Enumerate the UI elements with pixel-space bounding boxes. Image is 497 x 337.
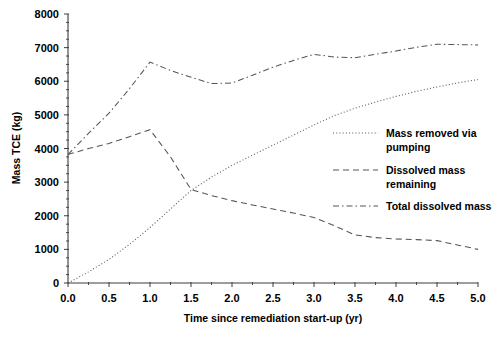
y-tick-label: 5000 (35, 109, 59, 121)
x-tick-label: 0.5 (101, 292, 116, 304)
x-tick-label: 1.0 (142, 292, 157, 304)
x-tick-label: 1.5 (183, 292, 198, 304)
y-axis-tick-labels: 010002000300040005000600070008000 (35, 8, 59, 289)
y-tick-label: 3000 (35, 176, 59, 188)
legend-label-mass-removed-via-pumping-line2: pumping (386, 141, 430, 153)
y-axis-title: Mass TCE (kg) (10, 112, 22, 184)
y-tick-label: 0 (53, 277, 59, 289)
x-axis-ticks (68, 282, 478, 287)
y-tick-label: 8000 (35, 8, 59, 20)
chart-legend: Mass removed via pumping Dissolved mass … (333, 127, 492, 212)
y-tick-label: 4000 (35, 143, 59, 155)
x-tick-label: 4.0 (388, 292, 403, 304)
x-axis-tick-labels: 0.00.51.01.52.02.53.03.54.04.55.0 (60, 292, 485, 304)
x-axis-title: Time since remediation start-up (yr) (184, 312, 362, 324)
x-axis-group: 0.00.51.01.52.02.53.03.54.04.55.0 Time s… (60, 282, 485, 324)
x-tick-label: 3.0 (306, 292, 321, 304)
y-tick-label: 1000 (35, 243, 59, 255)
legend-label-total-dissolved-mass-line1: Total dissolved mass (386, 200, 492, 212)
x-tick-label: 4.5 (429, 292, 444, 304)
x-tick-label: 2.0 (224, 292, 239, 304)
x-tick-label: 0.0 (60, 292, 75, 304)
x-tick-label: 5.0 (470, 292, 485, 304)
legend-label-dissolved-mass-remaining-line1: Dissolved mass (386, 164, 466, 176)
x-tick-label: 3.5 (347, 292, 362, 304)
chart-container: 010002000300040005000600070008000 Mass T… (0, 0, 497, 337)
y-tick-label: 6000 (35, 75, 59, 87)
y-tick-label: 2000 (35, 210, 59, 222)
legend-label-mass-removed-via-pumping-line1: Mass removed via (386, 127, 477, 139)
line-chart: 010002000300040005000600070008000 Mass T… (0, 0, 497, 337)
x-tick-label: 2.5 (265, 292, 280, 304)
legend-label-dissolved-mass-remaining-line2: remaining (386, 178, 436, 190)
y-axis-group: 010002000300040005000600070008000 Mass T… (10, 8, 69, 289)
y-tick-label: 7000 (35, 42, 59, 54)
